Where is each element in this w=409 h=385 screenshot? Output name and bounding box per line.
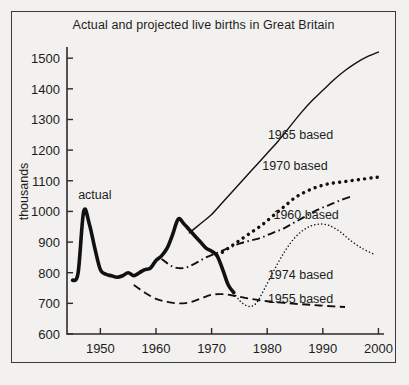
y-axis-tick-label: 1100 bbox=[32, 174, 60, 189]
y-axis-tick-label: 1200 bbox=[31, 143, 60, 158]
y-axis-tick-label: 900 bbox=[38, 235, 60, 250]
series-label-1965-based: 1965 based bbox=[268, 128, 333, 142]
y-axis-tick-label: 600 bbox=[38, 327, 60, 342]
series-label-1960-based: 1960 based bbox=[273, 208, 338, 222]
y-axis-title: thousands bbox=[17, 163, 31, 221]
x-axis-tick-label: 2000 bbox=[364, 341, 393, 356]
series-line-1965-based bbox=[189, 52, 378, 233]
y-axis-tick-label: 800 bbox=[38, 266, 60, 281]
births-line-chart: 6007008009001000110012001300140015001950… bbox=[12, 12, 394, 361]
y-axis-tick-label: 1400 bbox=[31, 82, 60, 97]
annotation-actual: actual bbox=[78, 188, 111, 202]
x-axis-tick-label: 1950 bbox=[86, 341, 115, 356]
chart-frame: Actual and projected live births in Grea… bbox=[11, 11, 396, 363]
series-label-1974-based: 1974 based bbox=[268, 268, 333, 282]
y-axis-tick-label: 700 bbox=[38, 296, 60, 311]
series-line-actual bbox=[73, 209, 234, 293]
chart-screenshot: Actual and projected live births in Grea… bbox=[0, 0, 409, 385]
y-axis-tick-label: 1500 bbox=[31, 51, 60, 66]
x-axis-tick-label: 1990 bbox=[308, 341, 337, 356]
x-axis-tick-label: 1960 bbox=[142, 341, 171, 356]
y-axis-tick-label: 1000 bbox=[31, 204, 60, 219]
series-label-1970-based: 1970 based bbox=[262, 159, 327, 173]
y-axis-tick-label: 1300 bbox=[31, 112, 60, 127]
series-label-1955-based: 1955 based bbox=[268, 292, 333, 306]
x-axis-tick-label: 1970 bbox=[197, 341, 226, 356]
x-axis-tick-label: 1980 bbox=[253, 341, 282, 356]
axis-spines bbox=[67, 47, 384, 334]
